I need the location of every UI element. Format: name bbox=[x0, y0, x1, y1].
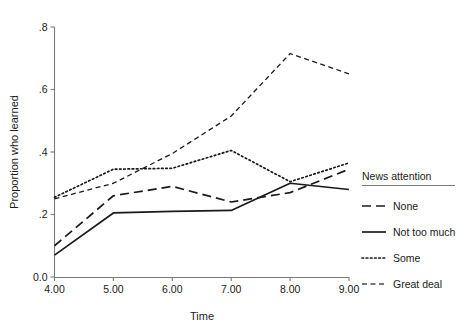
plot-area: 0.0.2.4.6.8 4.005.006.007.008.009.00 bbox=[33, 21, 359, 295]
y-tick-label: .4 bbox=[39, 146, 48, 158]
line-chart: 0.0.2.4.6.8 4.005.006.007.008.009.00 Pro… bbox=[0, 0, 470, 330]
legend-label-none: None bbox=[393, 200, 418, 212]
x-tick-labels: 4.005.006.007.008.009.00 bbox=[44, 283, 359, 295]
y-tick-label: 0.0 bbox=[33, 271, 48, 283]
legend-label-great-deal: Great deal bbox=[393, 278, 442, 290]
y-tick-label: .8 bbox=[39, 21, 48, 33]
x-tick-label: 9.00 bbox=[339, 283, 360, 295]
x-tick-label: 6.00 bbox=[162, 283, 183, 295]
series-group bbox=[55, 54, 350, 256]
y-tick-label: .6 bbox=[39, 83, 48, 95]
series-line-great-deal bbox=[55, 54, 350, 199]
y-axis-ticks bbox=[51, 27, 55, 277]
legend-label-not-too-much: Not too much bbox=[393, 226, 456, 238]
x-tick-label: 7.00 bbox=[221, 283, 242, 295]
legend: News attention NoneNot too muchSomeGreat… bbox=[362, 170, 456, 290]
x-tick-label: 5.00 bbox=[103, 283, 124, 295]
legend-title: News attention bbox=[362, 170, 432, 182]
x-tick-label: 4.00 bbox=[44, 283, 65, 295]
legend-label-some: Some bbox=[393, 252, 421, 264]
y-tick-labels: 0.0.2.4.6.8 bbox=[33, 21, 48, 283]
x-tick-label: 8.00 bbox=[280, 283, 301, 295]
series-line-not-too-much bbox=[55, 183, 350, 255]
y-tick-label: .2 bbox=[39, 208, 48, 220]
x-axis-title: Time bbox=[190, 310, 214, 322]
y-axis-title: Proportion who learned bbox=[8, 95, 20, 209]
series-line-some bbox=[55, 150, 350, 197]
legend-items: NoneNot too muchSomeGreat deal bbox=[362, 200, 456, 290]
series-line-none bbox=[55, 169, 350, 246]
